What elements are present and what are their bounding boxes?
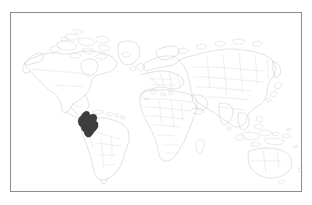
continent-africa: [140, 90, 204, 161]
continent-north-america: [23, 30, 140, 120]
japan-islands: [267, 82, 282, 102]
continent-australia: [248, 128, 303, 184]
south-america-borders: [89, 131, 121, 168]
asia-borders: [191, 53, 268, 110]
new-zealand: [299, 166, 303, 179]
pacific-islands: [287, 128, 298, 148]
continent-asia: [179, 39, 291, 146]
arctic-archipelago: [50, 30, 110, 59]
mediterranean-islands: [151, 90, 173, 96]
world-map-figure: [0, 0, 312, 205]
africa-borders: [142, 99, 193, 153]
maritime-southeast-asia: [235, 116, 291, 146]
australia-borders: [251, 149, 281, 173]
world-map-canvas: [11, 13, 303, 193]
highlighted-country-colombia: [78, 111, 98, 137]
caribbean-islands: [93, 110, 125, 119]
map-frame-border: [10, 12, 302, 192]
